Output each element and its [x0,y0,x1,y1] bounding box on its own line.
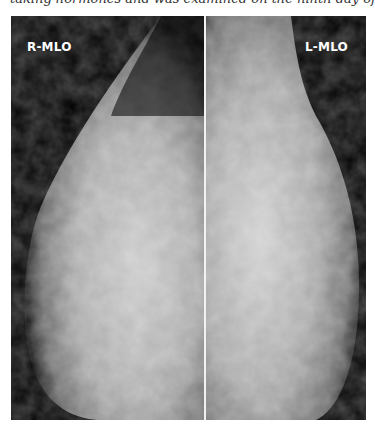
caption-text: taking hormones and was examined on the … [10,0,370,6]
panel-r-mlo: R-MLO [11,16,204,420]
panel-label-r-mlo: R-MLO [27,40,72,54]
panel-label-l-mlo: L-MLO [305,40,348,54]
panel-l-mlo: L-MLO [206,16,366,420]
mammogram-figure: R-MLO L-MLO [11,16,366,420]
breast-tissue-image-right [11,16,204,420]
breast-tissue-image-left [206,16,366,420]
